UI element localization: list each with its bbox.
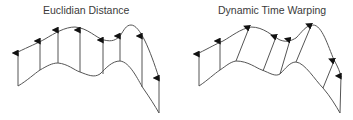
alignment-arrow [340,76,341,113]
dtw-panel [199,25,341,113]
alignment-arrow [236,28,249,61]
alignment-arrow [263,37,276,71]
bottom-series-curve [18,61,159,113]
alignment-arrow [323,61,334,88]
alignment-arrow [296,26,311,62]
euclidian-panel [18,25,159,113]
distance-diagram [0,0,353,120]
